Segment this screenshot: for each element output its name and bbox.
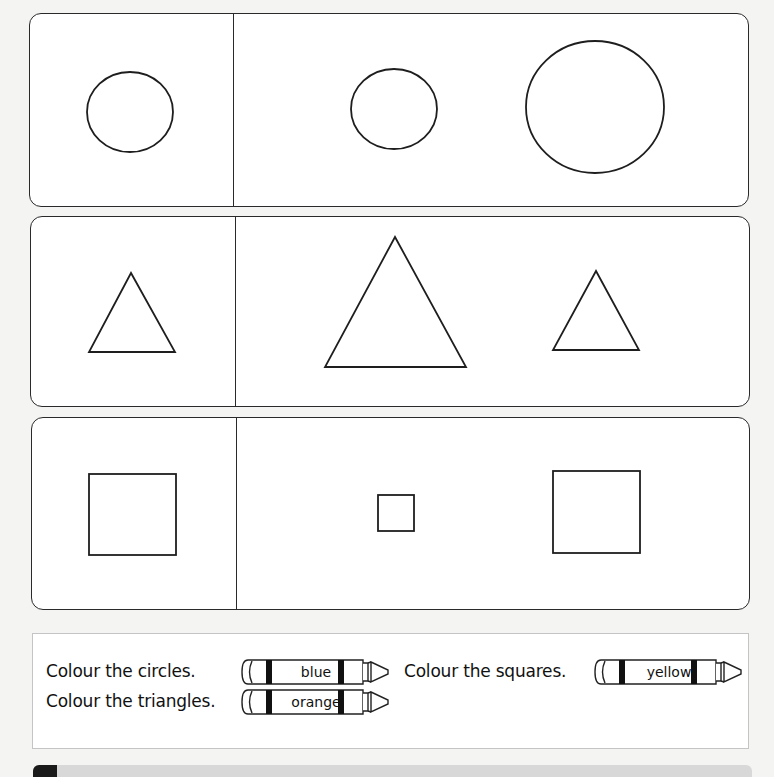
triangle-large[interactable] bbox=[325, 237, 466, 367]
example-triangle[interactable] bbox=[89, 273, 175, 352]
crayon-blue: blue bbox=[240, 658, 390, 686]
crayon-orange: orange bbox=[240, 688, 390, 716]
crayon-yellow: yellow bbox=[593, 658, 743, 686]
footer-tab bbox=[33, 765, 57, 777]
square-small[interactable] bbox=[378, 495, 414, 531]
example-square[interactable] bbox=[89, 474, 176, 555]
instruction-squares: Colour the squares. bbox=[404, 661, 566, 681]
circle-small[interactable] bbox=[351, 69, 437, 149]
shapes-layer bbox=[0, 0, 774, 640]
triangle-small[interactable] bbox=[553, 271, 639, 350]
circle-large[interactable] bbox=[526, 41, 664, 173]
crayon-label: blue bbox=[276, 662, 356, 682]
instruction-triangles: Colour the triangles. bbox=[46, 691, 215, 711]
square-large[interactable] bbox=[553, 471, 640, 553]
example-circle[interactable] bbox=[87, 72, 173, 152]
instruction-circles: Colour the circles. bbox=[46, 661, 196, 681]
crayon-label: yellow bbox=[629, 662, 709, 682]
footer-bar bbox=[33, 765, 752, 777]
crayon-label: orange bbox=[276, 692, 356, 712]
